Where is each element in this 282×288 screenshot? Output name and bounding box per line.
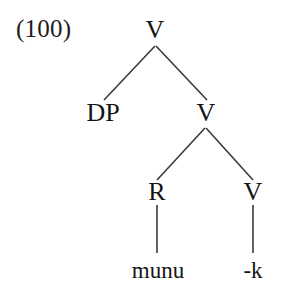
tree-branch-mid-v-to-low-v: [206, 128, 253, 180]
terminal-munu: munu: [132, 259, 184, 282]
tree-branch-mid-v-to-r: [157, 128, 205, 180]
tree-branch-root-v-to-dp: [104, 46, 155, 100]
tree-edge-group: [104, 46, 253, 253]
node-dp: DP: [86, 100, 119, 126]
node-root-v: V: [146, 17, 165, 43]
node-r: R: [148, 179, 165, 205]
syntax-tree-figure: (100) VDPVRVmunu-k: [0, 0, 282, 288]
tree-edges-canvas: [0, 0, 282, 288]
terminal-k-suffix: -k: [243, 259, 262, 282]
node-low-v: V: [244, 179, 263, 205]
node-mid-v: V: [197, 100, 216, 126]
tree-branch-root-v-to-mid-v: [156, 46, 207, 100]
